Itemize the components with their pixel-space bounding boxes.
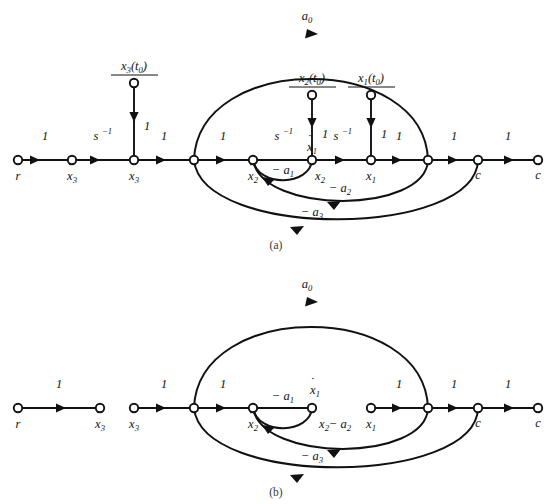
arc-a3-label: − a3 <box>301 205 323 221</box>
node-label-c-inner-a: c <box>475 168 481 182</box>
node-label-x2-b: x2 <box>318 417 330 433</box>
arrowhead-j1-xdot2-b <box>216 403 226 412</box>
arc-a0-label: a0 <box>302 9 313 25</box>
arc-a2-label-b: − a2 <box>329 417 352 433</box>
ic-gain-x3: 1 <box>144 119 150 133</box>
gain-label-x1-junction2-b: 1 <box>396 377 402 391</box>
gain-text: 1 <box>220 129 226 143</box>
node-label-x3-a: x3 <box>128 169 139 185</box>
gain-exponent: −1 <box>342 126 352 136</box>
ic-gain-x2: 1 <box>322 127 328 141</box>
gain-text: 1 <box>42 129 48 143</box>
arrowhead-x3-j1-b <box>156 403 166 412</box>
gain-text: 1 <box>396 129 402 143</box>
gain-label-x3-junction1-b: 1 <box>161 377 167 391</box>
node-dot-xdot2-b: ˙ <box>248 409 252 423</box>
arrowhead-a0-a <box>305 29 318 39</box>
gain-label-r-xdot3-b: 1 <box>56 377 62 391</box>
node-x1-b[interactable] <box>367 404 375 412</box>
node-junction2-b[interactable] <box>424 404 432 412</box>
node-label-c-outer-a: c <box>535 168 541 182</box>
arrowhead-ic-x1 <box>366 118 375 128</box>
node-junction1-a[interactable] <box>190 156 198 164</box>
arrowhead-a2-a <box>327 201 341 210</box>
node-label-x1-a: x1 <box>365 169 376 185</box>
arc-a1-label: − a1 <box>272 163 294 179</box>
arrowhead-r-xdot3 <box>30 155 40 164</box>
gain-label-r-xdot3: 1 <box>42 129 48 143</box>
gain-text: s <box>94 129 99 143</box>
arrowhead-a3-b <box>290 474 304 483</box>
node-c-inner-b[interactable] <box>474 404 482 412</box>
gain-text: s <box>334 129 339 143</box>
node-x3-a[interactable] <box>130 156 138 164</box>
ic-numerator: x2(t0) <box>298 71 325 87</box>
node-x3-b[interactable] <box>130 404 138 412</box>
node-label-x2-a: x2 <box>314 169 326 185</box>
ic-numerator: x3(t0) <box>120 59 147 75</box>
arrowhead-x1-j2 <box>392 155 402 164</box>
node-junction1-b[interactable] <box>190 404 198 412</box>
xdot1-dot-b: ˙ <box>310 375 314 389</box>
panel-b: 1 1 1 1 1 1 a0 − a1 − a2 − a3 x1 ˙ <box>14 277 542 499</box>
arc-a1-label-b: − a1 <box>272 389 294 405</box>
xdot1-dot-a: ˙ <box>307 132 311 146</box>
gain-label-junction2-c: 1 <box>451 129 457 143</box>
node-ic-x3-a[interactable] <box>130 79 138 87</box>
gain-exponent: −1 <box>283 126 293 136</box>
node-dot-xdot2-a: ˙ <box>248 161 252 175</box>
node-dot-xdot3-a: ˙ <box>67 161 71 175</box>
signal-flow-graph-figure: 1 s −1 1 1 s −1 s −1 1 1 1 1 1 <box>0 0 553 504</box>
arrowhead-j2-c-b <box>448 403 458 412</box>
ic-numerator: x1(t0) <box>357 71 384 87</box>
node-label-c-outer-b: c <box>535 416 541 430</box>
gain-label-c-c: 1 <box>505 129 511 143</box>
node-r-a[interactable] <box>14 156 22 164</box>
arrowhead-j2-c <box>448 155 458 164</box>
caption-b: (b) <box>269 486 283 499</box>
node-dot-xdot3-b: ˙ <box>95 409 99 423</box>
node-c-outer-a[interactable] <box>534 156 542 164</box>
gain-label-c-c-b: 1 <box>505 377 511 391</box>
arrowhead-c-c <box>504 155 514 164</box>
arrowhead-r-xdot3-b <box>56 403 66 412</box>
panel-a: 1 s −1 1 1 s −1 s −1 1 1 1 1 1 <box>14 9 542 252</box>
node-ic-x2-a[interactable] <box>308 91 316 99</box>
node-label-c-inner-b: c <box>475 416 481 430</box>
arrowhead-a0-b <box>305 297 318 307</box>
node-c-outer-b[interactable] <box>534 404 542 412</box>
caption-a: (a) <box>270 239 283 252</box>
arrowhead-c-c-b <box>504 403 514 412</box>
arrowhead-x1-j2-b <box>392 403 402 412</box>
gain-text: 1 <box>451 129 457 143</box>
gain-exponent: −1 <box>102 126 112 136</box>
arrowhead-j1-xdot2 <box>216 155 226 164</box>
gain-label-xdot3-x3: s −1 <box>94 126 113 143</box>
arc-a2-label: − a2 <box>329 181 352 197</box>
arrowhead-xdot3-x3 <box>90 155 100 164</box>
gain-label-junction2-c-b: 1 <box>451 377 457 391</box>
arrowhead-x2-x1 <box>335 155 345 164</box>
arrowhead-a2-b <box>327 449 341 458</box>
node-x2-a[interactable] <box>308 156 316 164</box>
node-label-x1-b: x1 <box>365 417 376 433</box>
node-ic-x1-a[interactable] <box>367 91 375 99</box>
arc-a0-label-b: a0 <box>302 277 313 293</box>
node-r-b[interactable] <box>14 404 22 412</box>
gain-label-x1-junction2: 1 <box>396 129 402 143</box>
node-x1-a[interactable] <box>367 156 375 164</box>
arc-a3-label-b: − a3 <box>301 449 323 465</box>
arrowhead-ic-x2 <box>307 118 316 128</box>
gain-text: 1 <box>161 129 167 143</box>
node-junction2-a[interactable] <box>424 156 432 164</box>
node-label-r-b: r <box>16 417 21 431</box>
arrowhead-ic-x3 <box>129 112 138 122</box>
node-c-inner-a[interactable] <box>474 156 482 164</box>
gain-text: s <box>275 129 280 143</box>
node-x2-b[interactable] <box>308 404 316 412</box>
arrowhead-x3-j1 <box>156 155 166 164</box>
arrowhead-a3-a <box>290 226 304 235</box>
node-label-r-a: r <box>16 169 21 183</box>
gain-text: 1 <box>505 129 511 143</box>
gain-label-x2-x1: s −1 <box>334 126 353 143</box>
